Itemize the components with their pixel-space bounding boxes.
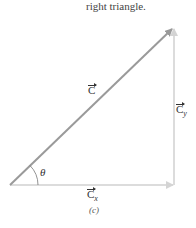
figure-label: (c) [89,205,99,215]
angle-arc [30,166,38,186]
vector-c-arrow [10,29,172,185]
label-theta: θ [40,166,45,178]
label-vector-cx: Cx [87,188,98,203]
vector-triangle-diagram [0,0,196,228]
label-vector-c: C [88,84,95,96]
label-vector-cy: Cy [176,103,187,118]
